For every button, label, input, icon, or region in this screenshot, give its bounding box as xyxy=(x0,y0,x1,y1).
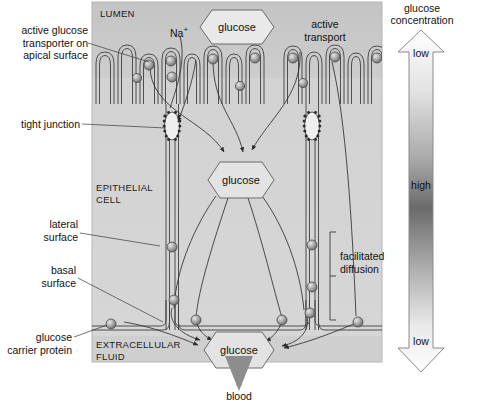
label-facilitated-diffusion: facilitated diffusion xyxy=(340,250,384,275)
label-active-glucose-transporter: active glucose transporter on apical sur… xyxy=(0,24,88,62)
scale-title: glucoseconcentration xyxy=(386,2,458,26)
sodium-symbol: Na xyxy=(170,27,183,39)
scale-middle-label: high xyxy=(411,179,431,191)
carrier-sphere xyxy=(277,315,287,325)
label-glucose-carrier-protein: glucose carrier protein xyxy=(0,331,72,356)
region-label-epithelial-cell: EPITHELIAL CELL xyxy=(96,182,153,205)
label-sodium-ion: Na+ xyxy=(170,24,188,39)
region-label-extracellular-fluid: EXTRACELLULAR FLUID xyxy=(96,339,181,362)
glucose-hexagon-extracellular: glucose xyxy=(204,332,274,368)
transporter-sphere xyxy=(132,73,141,82)
concentration-scale: low high low xyxy=(398,30,444,372)
transporter-sphere xyxy=(166,56,176,66)
scale-bottom-label: low xyxy=(413,335,429,347)
label-tight-junction: tight junction xyxy=(0,118,80,131)
carrier-sphere xyxy=(307,282,317,292)
transporter-sphere xyxy=(235,81,244,90)
glucose-extracellular-label: glucose xyxy=(220,344,258,356)
label-lateral-surface: lateral surface xyxy=(0,218,78,243)
transporter-sphere xyxy=(330,52,340,62)
transporter-sphere xyxy=(298,78,307,87)
transporter-sphere xyxy=(167,72,177,82)
carrier-sphere xyxy=(169,295,179,305)
glucose-hexagon-lumen: glucose xyxy=(200,10,274,44)
carrier-sphere xyxy=(191,315,201,325)
transporter-sphere xyxy=(144,60,154,70)
label-active-transport: active transport xyxy=(288,18,362,43)
figure-root: glucose glucose glucose low high low xyxy=(0,0,478,406)
carrier-sphere xyxy=(167,242,177,252)
glucose-hexagon-cytosol: glucose xyxy=(208,162,274,198)
scale-title-line2: concentration xyxy=(390,14,453,26)
carrier-sphere xyxy=(106,319,116,329)
transporter-sphere xyxy=(208,54,218,64)
carrier-sphere xyxy=(305,308,315,318)
scale-top-label: low xyxy=(413,47,429,59)
carrier-sphere xyxy=(307,240,317,250)
transporter-sphere xyxy=(288,53,298,63)
transporter-sphere xyxy=(372,53,382,63)
transporter-sphere xyxy=(250,53,260,63)
sodium-charge: + xyxy=(183,25,188,34)
label-basal-surface: basal surface xyxy=(0,264,76,289)
label-blood: blood xyxy=(209,390,269,403)
region-label-lumen: LUMEN xyxy=(100,8,135,20)
carrier-sphere xyxy=(353,317,363,327)
scale-title-line1: glucose xyxy=(404,2,440,14)
glucose-cytosol-label: glucose xyxy=(222,174,260,186)
glucose-lumen-label: glucose xyxy=(218,21,256,33)
